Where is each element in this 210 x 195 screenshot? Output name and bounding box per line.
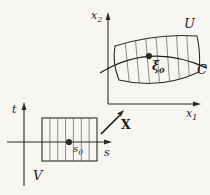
t-axis-label: t (12, 103, 17, 116)
t-axis-arrowhead-icon (22, 102, 27, 110)
x2-axis-arrowhead-icon (106, 12, 111, 20)
point-xi0-label: ξ0 (152, 59, 165, 75)
curve-C-label: C (197, 62, 207, 77)
map-arrow (101, 116, 120, 135)
diagram-figure: x2 x1 U C ξ0 t s s0 V (0, 0, 210, 195)
x1-axis-label: x1 (186, 107, 197, 122)
figure-canvas: x2 x1 U C ξ0 t s s0 V (0, 0, 210, 195)
map-X-label: X (121, 117, 131, 132)
x2-axis-label: x2 (91, 9, 102, 24)
s-axis-arrowhead-icon (104, 140, 112, 145)
parameter-plane: t s s0 V (7, 102, 112, 186)
region-V-label: V (33, 168, 44, 183)
target-plane: x2 x1 U C ξ0 (91, 9, 207, 122)
x1-axis-arrowhead-icon (193, 102, 201, 107)
point-s0-dot (66, 139, 72, 145)
s-axis-label: s (104, 146, 110, 159)
region-U-label: U (184, 16, 196, 31)
map-arrow-group: X (101, 110, 131, 134)
